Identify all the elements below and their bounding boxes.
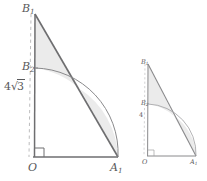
- large-vertical-leg: [35, 14, 36, 157]
- large-arc: [35, 68, 118, 157]
- label-B1-small: B1: [141, 59, 149, 66]
- geometry-svg: [0, 0, 207, 181]
- small-figure-group: [144, 64, 196, 156]
- label-O-small: O: [142, 159, 147, 166]
- large-hypotenuse: [35, 14, 118, 157]
- label-O-large: O: [28, 162, 37, 173]
- label-A1-large: A1: [110, 162, 123, 174]
- label-A1-small: A1: [190, 159, 197, 166]
- geometry-figure-canvas: B1 B2 4√3 O A1 B1 B2 4 O A1: [0, 0, 207, 181]
- small-hypotenuse: [148, 64, 196, 156]
- large-right-angle-marker: [35, 148, 44, 157]
- label-B1-large: B1: [22, 3, 35, 15]
- large-figure-group: [29, 14, 118, 157]
- large-dashed-axis: [29, 14, 31, 157]
- small-arc: [148, 104, 196, 156]
- label-length-large: 4√3: [4, 81, 25, 92]
- small-dashed-axis: [144, 64, 145, 156]
- label-B2-large: B2: [22, 61, 35, 73]
- label-B2-small: B2: [141, 100, 149, 107]
- small-right-angle-marker: [148, 150, 154, 156]
- label-length-small: 4: [139, 112, 143, 119]
